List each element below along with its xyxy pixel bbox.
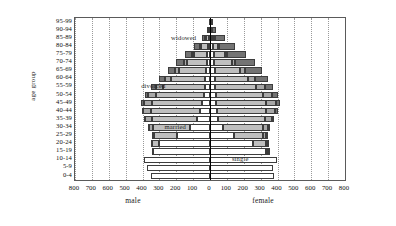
y-tick-65-69: 65-69 [26, 66, 72, 73]
annotation-married: married [164, 123, 186, 130]
bar-segment-female-single [210, 124, 223, 130]
bar-segment-female-widowed [219, 43, 235, 49]
y-tick-30-34: 30-34 [26, 123, 72, 130]
y-tick-35-39: 35-39 [26, 115, 72, 122]
bar-segment-female-single [210, 148, 266, 154]
bar-segment-female-widowed [272, 92, 278, 98]
bar-segment-female-married [217, 108, 267, 114]
y-axis-tick-labels: 95-9990-9485-8980-8475-7970-7465-6960-64… [24, 17, 72, 181]
bar-segment-female-widowed [276, 100, 280, 106]
bar-segment-female-divorced [263, 92, 272, 98]
bar-segment-female-married [214, 59, 232, 65]
annotation-widowed: widowed [171, 34, 196, 41]
bar-segment-female-widowed [266, 132, 268, 138]
bar-segment-female-divorced [268, 148, 270, 154]
bar-segment-female-married [215, 84, 256, 90]
bar-segment-female-divorced [265, 116, 272, 122]
annotation-single: single [232, 155, 249, 162]
population-pyramid-chart: age group 95-9990-9485-8980-8475-7970-74… [0, 0, 396, 226]
bar-segment-female-widowed [275, 108, 277, 114]
y-tick-70-74: 70-74 [26, 58, 72, 65]
y-tick-50-54: 50-54 [26, 91, 72, 98]
zero-axis-line [210, 18, 211, 180]
bar-segment-female-single [210, 116, 218, 122]
bar-segment-female-divorced [256, 84, 264, 90]
y-tick-45-49: 45-49 [26, 99, 72, 106]
bar-segment-female-widowed [245, 67, 262, 73]
y-tick-25-29: 25-29 [26, 131, 72, 138]
y-tick-10-14: 10-14 [26, 155, 72, 162]
y-tick-55-59: 55-59 [26, 82, 72, 89]
bar-segment-female-widowed [235, 59, 255, 65]
x-axis-title-female: female [238, 196, 288, 205]
bar-segment-female-single [210, 165, 273, 171]
bar-segment-female-widowed [272, 116, 274, 122]
bar-segment-female-widowed [268, 124, 270, 130]
bar-segment-female-married [218, 116, 265, 122]
bar-segment-female-married [214, 51, 224, 57]
y-tick-20-24: 20-24 [26, 139, 72, 146]
bar-segment-female-married [223, 124, 263, 130]
bar-segment-female-married [234, 132, 263, 138]
y-tick-60-64: 60-64 [26, 74, 72, 81]
plot-inner [75, 18, 345, 180]
plot-area [74, 17, 346, 181]
y-tick-95-99: 95-99 [26, 18, 72, 25]
bar-segment-female-divorced [266, 100, 276, 106]
y-tick-75-79: 75-79 [26, 50, 72, 57]
y-tick-0-4: 0-4 [26, 172, 72, 179]
bar-segment-female-divorced [266, 108, 275, 114]
y-tick-15-19: 15-19 [26, 147, 72, 154]
bar-segment-female-married [253, 140, 266, 146]
y-tick-90-94: 90-94 [26, 26, 72, 33]
bar-segment-female-married [215, 76, 248, 82]
bar-segment-female-married [216, 92, 263, 98]
y-tick-5-9: 5-9 [26, 163, 72, 170]
y-tick-80-84: 80-84 [26, 42, 72, 49]
y-tick-85-89: 85-89 [26, 34, 72, 41]
x-axis-title-male: male [108, 196, 158, 205]
bar-segment-female-widowed [227, 51, 247, 57]
bar-segment-female-widowed [215, 35, 225, 41]
y-tick-40-44: 40-44 [26, 107, 72, 114]
bar-segment-female-divorced [248, 76, 255, 82]
annotation-divorced: divorced [141, 82, 165, 89]
x-tick-female-800: 800 [324, 184, 364, 191]
bar-segment-female-single [210, 173, 274, 179]
bar-segment-female-married [216, 100, 266, 106]
bar-segment-female-widowed [212, 27, 216, 33]
bar-segment-female-widowed [255, 76, 268, 82]
bar-segment-female-widowed [267, 140, 269, 146]
bar-segment-female-single [210, 140, 253, 146]
bar-segment-female-married [215, 67, 241, 73]
bar-segment-female-widowed [265, 84, 274, 90]
bar-segment-female-single [210, 132, 234, 138]
bar-segment-female-single [210, 108, 217, 114]
